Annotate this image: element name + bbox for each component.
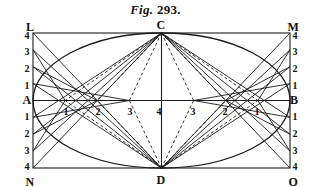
axis-division-label-0: 1 xyxy=(64,107,69,117)
right-division-label-5: 2 xyxy=(293,129,298,139)
left-division-label-5: 2 xyxy=(25,129,30,139)
chord-axis2-up xyxy=(226,67,290,101)
line-D-to-edge-1 xyxy=(33,84,162,168)
right-division-label-0: 4 xyxy=(293,31,298,41)
right-division-label-7: 4 xyxy=(293,162,298,172)
line-C-to-edge-3 xyxy=(162,33,291,151)
axis-division-label-5: 2 xyxy=(223,107,228,117)
axis-point-label-B: B xyxy=(290,94,298,106)
axis-point-label-C: C xyxy=(157,19,166,31)
right-division-label-3: 1 xyxy=(293,81,298,91)
line-C-to-edge-2 xyxy=(162,33,291,134)
left-division-label-7: 4 xyxy=(25,162,30,172)
left-division-label-3: 1 xyxy=(25,81,30,91)
right-division-label-6: 3 xyxy=(293,146,298,156)
line-C-to-edge-1 xyxy=(33,33,162,117)
axis-division-label-4: 3 xyxy=(191,107,196,117)
right-division-label-4: 1 xyxy=(293,112,298,122)
axis-division-label-6: 1 xyxy=(255,107,260,117)
ellipse-construction-diagram xyxy=(0,0,311,187)
dash-C-to-axis-1 xyxy=(65,33,161,101)
dash-D-to-axis-1 xyxy=(65,101,161,169)
axis-division-label-3: 4 xyxy=(157,107,162,117)
line-D-to-edge-2 xyxy=(162,67,291,168)
corner-label-O: O xyxy=(289,176,298,187)
left-division-label-1: 3 xyxy=(25,47,30,57)
left-division-label-0: 4 xyxy=(25,31,30,41)
right-division-label-2: 2 xyxy=(293,64,298,74)
axis-point-label-A: A xyxy=(23,94,32,106)
dash-C-to-axis-1 xyxy=(162,33,258,101)
corner-label-N: N xyxy=(26,176,35,187)
line-C-to-edge-2 xyxy=(33,33,162,134)
chord-axis2-up xyxy=(33,67,97,101)
right-division-label-1: 3 xyxy=(293,47,298,57)
line-C-to-edge-3 xyxy=(33,33,162,151)
left-division-label-2: 2 xyxy=(25,64,30,74)
axis-point-label-D: D xyxy=(157,174,166,186)
dash-C-to-axis-2 xyxy=(162,33,226,101)
left-division-label-4: 1 xyxy=(25,112,30,122)
axis-division-label-2: 3 xyxy=(128,107,133,117)
line-D-to-edge-2 xyxy=(33,67,162,168)
dash-D-to-axis-1 xyxy=(162,101,258,169)
line-D-to-edge-1 xyxy=(162,84,291,168)
line-C-to-edge-1 xyxy=(162,33,291,117)
axis-division-label-1: 2 xyxy=(96,107,101,117)
left-division-label-6: 3 xyxy=(25,146,30,156)
dash-C-to-axis-2 xyxy=(97,33,161,101)
center-axes xyxy=(33,33,290,168)
